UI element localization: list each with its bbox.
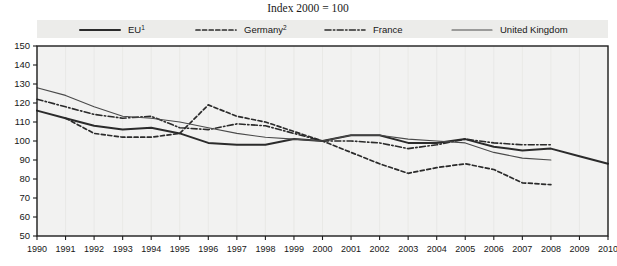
x-axis-tick-label: 2006 bbox=[484, 244, 504, 254]
legend-label-germany: Germany2 bbox=[244, 24, 287, 36]
x-axis-tick-label: 2005 bbox=[455, 244, 475, 254]
x-axis-tick-label: 1996 bbox=[198, 244, 218, 254]
y-axis-tick-label: 120 bbox=[14, 97, 30, 108]
x-axis-tick-label: 2002 bbox=[370, 244, 390, 254]
x-axis-tick-label: 1994 bbox=[141, 244, 161, 254]
x-axis-tick-label: 2009 bbox=[569, 244, 589, 254]
y-axis-tick-label: 150 bbox=[14, 40, 30, 51]
x-axis-tick-label: 2004 bbox=[427, 244, 447, 254]
y-axis-tick-label: 80 bbox=[19, 173, 30, 184]
x-axis-tick-label: 2001 bbox=[341, 244, 361, 254]
x-axis-tick-label: 2003 bbox=[398, 244, 418, 254]
x-axis-tick-label: 1990 bbox=[27, 244, 47, 254]
y-axis-tick-label: 140 bbox=[14, 59, 30, 70]
x-axis-labels: 1990199119921993199419951996199719981999… bbox=[27, 244, 617, 254]
x-axis-tick-label: 1991 bbox=[56, 244, 76, 254]
x-axis-tick-label: 2007 bbox=[512, 244, 532, 254]
y-axis-tick-label: 100 bbox=[14, 135, 30, 146]
legend-label-france: France bbox=[373, 24, 403, 35]
legend-footnote-marker: 2 bbox=[283, 24, 287, 31]
y-axis-tick-label: 90 bbox=[19, 154, 30, 165]
y-axis-tick-label: 130 bbox=[14, 78, 30, 89]
y-axis-tick-label: 50 bbox=[19, 230, 30, 241]
x-axis-tick-label: 1998 bbox=[255, 244, 275, 254]
x-axis-tick-label: 1997 bbox=[227, 244, 247, 254]
index-line-chart: Index 2000 = 100 EU1Germany2FranceUnited… bbox=[0, 0, 617, 266]
y-axis-tick-label: 70 bbox=[19, 192, 30, 203]
x-axis-tick-label: 2008 bbox=[541, 244, 561, 254]
chart-title: Index 2000 = 100 bbox=[267, 2, 349, 14]
y-axis-labels: 5060708090100110120130140150 bbox=[14, 40, 30, 241]
chart-container: Index 2000 = 100 EU1Germany2FranceUnited… bbox=[0, 0, 617, 266]
y-axis-tick-label: 110 bbox=[15, 116, 30, 127]
legend-footnote-marker: 1 bbox=[141, 24, 145, 31]
x-axis-tick-label: 1993 bbox=[113, 244, 133, 254]
y-axis-tick-label: 60 bbox=[19, 211, 30, 222]
x-axis-tick-label: 1992 bbox=[84, 244, 104, 254]
x-axis-tick-label: 2000 bbox=[312, 244, 332, 254]
legend-label-united-kingdom: United Kingdom bbox=[500, 24, 568, 35]
x-axis-tick-label: 1999 bbox=[284, 244, 304, 254]
x-axis-tick-label: 2010 bbox=[598, 244, 617, 254]
x-axis-tick-label: 1995 bbox=[170, 244, 190, 254]
